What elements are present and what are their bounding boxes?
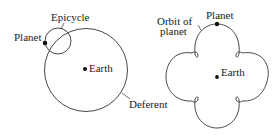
deferent-label: Deferent: [129, 99, 167, 110]
orbit-label-line2: planet: [160, 26, 187, 37]
orbit-pointer: [198, 25, 201, 30]
earth-label-left: Earth: [89, 63, 113, 74]
epicycle-circle: [45, 28, 71, 54]
earth-dot-left: [83, 67, 87, 71]
planet-label-right: Planet: [206, 10, 234, 21]
epicycle-pointer: [61, 23, 64, 29]
planet-label-left: Planet: [14, 32, 42, 43]
planet-dot-right: [215, 22, 219, 26]
earth-dot-right: [215, 75, 219, 79]
planet-dot-left: [43, 41, 48, 46]
earth-label-right: Earth: [221, 67, 245, 78]
epicycle-label: Epicycle: [51, 12, 89, 23]
